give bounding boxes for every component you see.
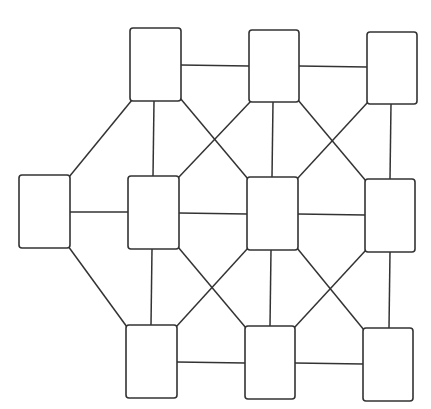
node-box bbox=[128, 176, 179, 249]
edge-tl-tm bbox=[181, 65, 249, 66]
node-bl bbox=[126, 325, 177, 398]
node-box bbox=[130, 28, 181, 101]
edge-c-bm bbox=[270, 250, 271, 326]
edge-tm-tr bbox=[299, 66, 367, 67]
node-tm bbox=[249, 30, 299, 102]
edge-c-bl bbox=[176, 248, 248, 327]
edge-ml-c bbox=[179, 213, 247, 214]
node-box bbox=[365, 179, 415, 252]
edge-tm-ml bbox=[178, 101, 251, 178]
edge-c-mr bbox=[298, 214, 365, 215]
node-box bbox=[126, 325, 177, 398]
node-mr bbox=[365, 179, 415, 252]
edges-layer bbox=[68, 65, 391, 364]
node-br bbox=[363, 328, 413, 401]
network-diagram bbox=[0, 0, 431, 409]
edge-mr-br bbox=[389, 252, 390, 328]
node-ml bbox=[128, 176, 179, 249]
edge-mr-bm bbox=[294, 250, 366, 328]
node-box bbox=[245, 326, 295, 399]
node-tl bbox=[130, 28, 181, 101]
node-bm bbox=[245, 326, 295, 399]
edge-bm-br bbox=[295, 363, 363, 364]
edge-tm-c bbox=[272, 102, 273, 177]
node-box bbox=[19, 175, 70, 248]
edge-bl-bm bbox=[177, 362, 245, 363]
edge-tl-c bbox=[180, 98, 248, 179]
node-tr bbox=[367, 32, 417, 104]
edge-l-bl bbox=[68, 246, 127, 327]
edge-tr-c bbox=[297, 102, 368, 179]
edge-tl-l bbox=[69, 100, 132, 177]
node-l bbox=[19, 175, 70, 248]
node-box bbox=[247, 177, 298, 250]
edge-tl-ml bbox=[153, 101, 154, 176]
node-box bbox=[363, 328, 413, 401]
edge-ml-bl bbox=[151, 249, 152, 325]
node-c bbox=[247, 177, 298, 250]
node-box bbox=[367, 32, 417, 104]
edge-tr-mr bbox=[390, 104, 391, 179]
node-box bbox=[249, 30, 299, 102]
